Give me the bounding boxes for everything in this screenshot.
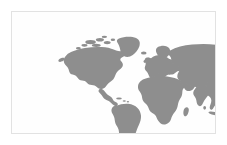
world-map-figure xyxy=(52,28,216,134)
world-map-svg[interactable] xyxy=(52,28,216,134)
region-sri-lanka xyxy=(203,106,206,110)
region-iceland xyxy=(141,51,147,54)
app-root xyxy=(0,0,227,145)
map-panel xyxy=(11,11,216,134)
